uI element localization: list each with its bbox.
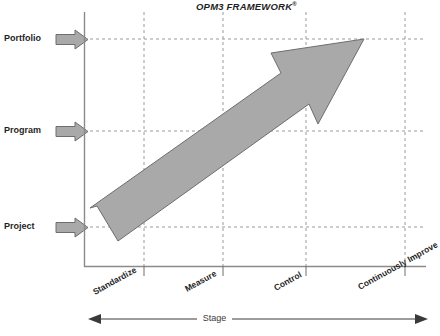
maturity-progression-arrow: [90, 39, 364, 241]
x-axis-tick-marks: [144, 266, 405, 276]
stage-axis-arrow: [88, 314, 428, 324]
vertical-gridlines: [144, 12, 405, 267]
